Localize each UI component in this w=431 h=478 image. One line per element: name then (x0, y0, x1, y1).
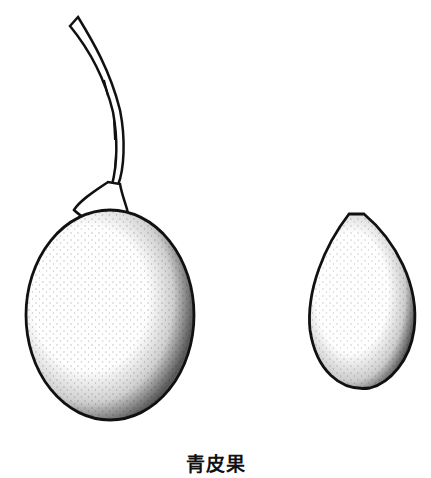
illustration-canvas: 青皮果 (0, 0, 431, 478)
small-fruit (309, 214, 414, 388)
large-fruit (26, 210, 194, 420)
caption: 青皮果 (0, 449, 431, 476)
botanical-drawing (0, 0, 431, 478)
stem (70, 17, 128, 223)
